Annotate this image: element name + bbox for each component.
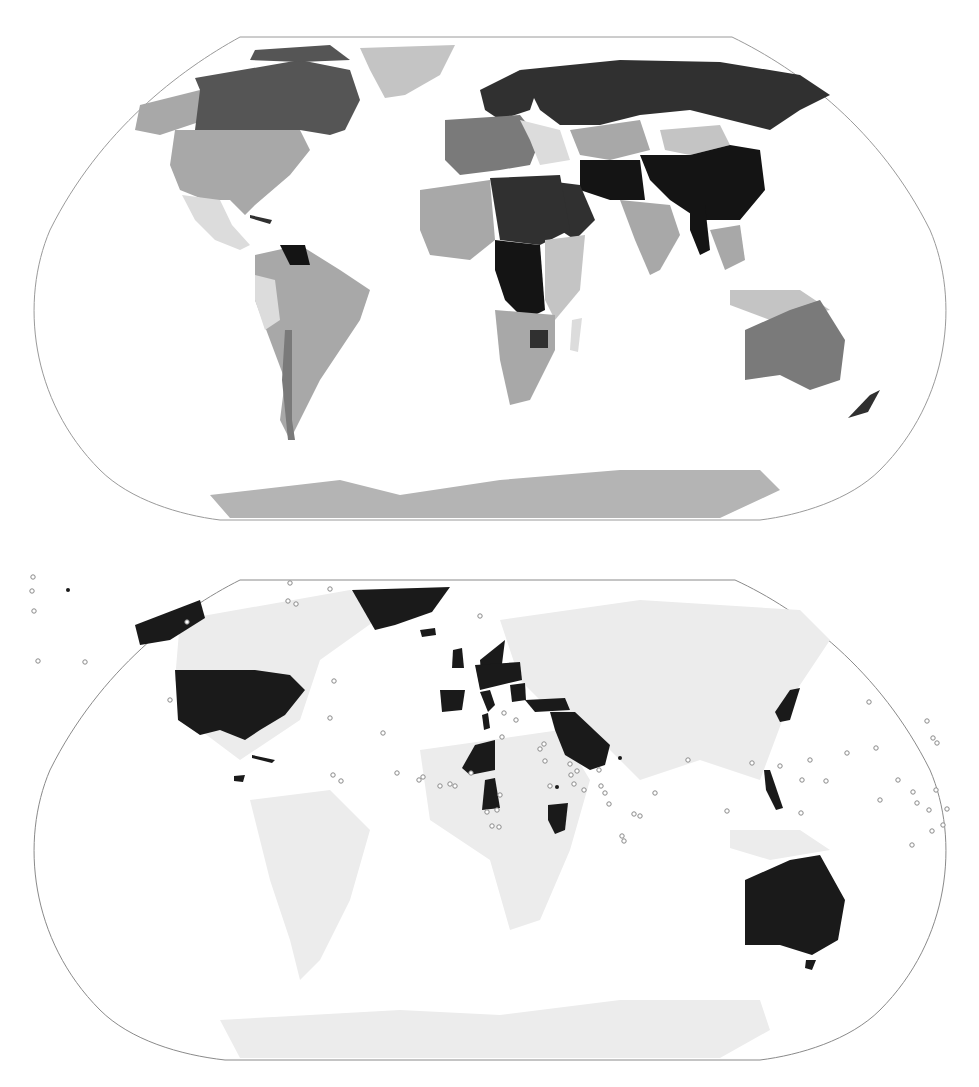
- territory-marker-hollow: [490, 824, 494, 828]
- territory-marker-hollow: [381, 731, 385, 735]
- territory-marker-hollow: [845, 751, 849, 755]
- territory-marker-hollow: [638, 814, 642, 818]
- territory-marker-hollow: [286, 599, 290, 603]
- territory-marker-hollow: [934, 788, 938, 792]
- territory-marker-hollow: [542, 742, 546, 746]
- territory-marker-hollow: [395, 771, 399, 775]
- territory-marker-hollow: [725, 809, 729, 813]
- territory-marker-filled: [555, 785, 559, 789]
- territory-marker-hollow: [495, 808, 499, 812]
- territory-marker-hollow: [469, 771, 473, 775]
- territory-marker-hollow: [331, 773, 335, 777]
- territory-marker-hollow: [910, 843, 914, 847]
- territory-marker-hollow: [603, 791, 607, 795]
- territory-marker-hollow: [808, 758, 812, 762]
- territory-marker-hollow: [498, 793, 502, 797]
- territory-marker-hollow: [925, 719, 929, 723]
- territory-marker-hollow: [632, 812, 636, 816]
- territory-marker-hollow: [927, 808, 931, 812]
- territory-marker-hollow: [32, 609, 36, 613]
- territory-marker-hollow: [575, 769, 579, 773]
- territory-marker-hollow: [878, 798, 882, 802]
- territory-marker-hollow: [500, 735, 504, 739]
- region-zimbabwe: [530, 330, 548, 348]
- region-north-africa-west: [420, 180, 495, 260]
- territory-marker-hollow: [438, 784, 442, 788]
- territory-marker-hollow: [421, 775, 425, 779]
- territory-marker-hollow: [945, 807, 949, 811]
- territory-marker-hollow: [911, 790, 915, 794]
- territory-marker-hollow: [294, 602, 298, 606]
- territory-marker-hollow: [941, 823, 945, 827]
- territory-marker-hollow: [497, 825, 501, 829]
- territory-marker-hollow: [168, 698, 172, 702]
- choropleth-map-svg: [0, 0, 979, 540]
- territory-marker-hollow: [620, 834, 624, 838]
- territory-marker-hollow: [597, 768, 601, 772]
- territory-marker-hollow: [30, 589, 34, 593]
- highlight-balkans: [510, 683, 526, 702]
- territory-marker-hollow: [931, 736, 935, 740]
- territory-marker-filled: [66, 588, 70, 592]
- territory-marker-hollow: [485, 810, 489, 814]
- highlight-spain: [440, 690, 465, 712]
- territory-marker-hollow: [622, 839, 626, 843]
- territory-marker-hollow: [935, 741, 939, 745]
- region-libya-egypt-sudan: [490, 175, 570, 245]
- territory-marker-hollow: [548, 784, 552, 788]
- territory-marker-hollow: [543, 759, 547, 763]
- territory-marker-hollow: [572, 782, 576, 786]
- territory-marker-hollow: [339, 779, 343, 783]
- territory-marker-hollow: [915, 801, 919, 805]
- territory-marker-hollow: [799, 811, 803, 815]
- territory-marker-hollow: [328, 716, 332, 720]
- territory-marker-hollow: [599, 784, 603, 788]
- territory-marker-hollow: [288, 581, 292, 585]
- territory-marker-hollow: [417, 778, 421, 782]
- territory-marker-hollow: [185, 620, 189, 624]
- territory-marker-hollow: [478, 614, 482, 618]
- territory-marker-hollow: [502, 711, 506, 715]
- territory-marker-hollow: [453, 784, 457, 788]
- territory-marker-filled: [618, 756, 622, 760]
- territory-marker-hollow: [31, 575, 35, 579]
- territory-marker-hollow: [896, 778, 900, 782]
- territory-marker-hollow: [582, 788, 586, 792]
- highlight-world-map: [0, 570, 979, 1087]
- territory-marker-hollow: [800, 778, 804, 782]
- territory-marker-hollow: [824, 779, 828, 783]
- territory-marker-hollow: [686, 758, 690, 762]
- territory-marker-hollow: [930, 829, 934, 833]
- territory-marker-hollow: [514, 718, 518, 722]
- highlight-uk: [452, 648, 464, 668]
- territory-marker-hollow: [332, 679, 336, 683]
- territory-marker-hollow: [874, 746, 878, 750]
- territory-marker-hollow: [750, 761, 754, 765]
- territory-marker-hollow: [83, 660, 87, 664]
- territory-marker-hollow: [569, 773, 573, 777]
- territory-marker-hollow: [778, 764, 782, 768]
- territory-marker-hollow: [568, 762, 572, 766]
- choropleth-world-map: [0, 0, 979, 540]
- territory-marker-hollow: [448, 782, 452, 786]
- territory-marker-hollow: [36, 659, 40, 663]
- territory-marker-hollow: [653, 791, 657, 795]
- highlight-map-svg: [0, 570, 979, 1087]
- territory-marker-hollow: [538, 747, 542, 751]
- territory-marker-hollow: [607, 802, 611, 806]
- territory-marker-hollow: [867, 700, 871, 704]
- territory-marker-hollow: [328, 587, 332, 591]
